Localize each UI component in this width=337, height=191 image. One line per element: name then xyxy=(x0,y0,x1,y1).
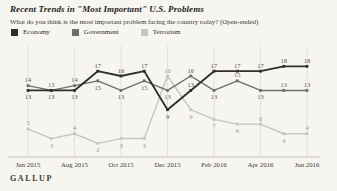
data-point-economy xyxy=(236,70,239,73)
data-point-economy xyxy=(27,89,30,92)
data-point-label-terrorism: 7 xyxy=(212,122,216,129)
data-point-government xyxy=(282,89,285,92)
data-point-label-terrorism: 16 xyxy=(164,67,171,74)
data-point-label-government: 13 xyxy=(211,93,218,100)
data-point-government xyxy=(213,89,216,92)
data-point-government xyxy=(236,79,239,82)
data-point-label-government: 15 xyxy=(141,84,148,91)
data-point-label-terrorism: 4 xyxy=(73,124,77,131)
data-point-label-government: 13 xyxy=(48,81,55,88)
data-point-terrorism xyxy=(213,118,216,121)
data-point-label-terrorism: 3 xyxy=(119,142,122,149)
data-point-label-economy: 17 xyxy=(211,62,218,69)
data-point-label-economy: 9 xyxy=(166,113,169,120)
data-point-label-economy: 13 xyxy=(71,93,78,100)
x-tick-label: Dec 2015 xyxy=(154,161,181,168)
x-tick-label: Apr 2016 xyxy=(248,161,274,168)
gallup-trend-chart-card: Recent Trends in "Most Important" U.S. P… xyxy=(0,0,337,191)
data-point-label-economy: 17 xyxy=(141,62,148,69)
data-point-terrorism xyxy=(143,137,146,140)
data-point-government xyxy=(306,89,309,92)
data-point-label-terrorism: 2 xyxy=(96,146,99,153)
gallup-logo: GALLUP xyxy=(10,174,53,183)
data-point-label-terrorism: 6 xyxy=(259,115,263,122)
data-point-government xyxy=(27,84,30,87)
data-point-economy xyxy=(143,70,146,73)
data-point-economy xyxy=(50,89,53,92)
data-point-economy xyxy=(306,65,309,68)
line-chart-canvas: Jun 2015Aug 2015Oct 2015Dec 2015Feb 2016… xyxy=(0,0,337,191)
data-point-terrorism xyxy=(282,132,285,135)
data-point-terrorism xyxy=(73,132,76,135)
data-point-label-government: 13 xyxy=(118,93,125,100)
data-point-label-economy: 16 xyxy=(118,67,125,74)
data-point-label-economy: 17 xyxy=(257,62,264,69)
x-tick-label: Jun 2015 xyxy=(16,161,41,168)
data-point-economy xyxy=(189,89,192,92)
data-point-government xyxy=(143,79,146,82)
data-point-label-terrorism: 3 xyxy=(50,142,53,149)
data-point-government xyxy=(73,84,76,87)
data-point-terrorism xyxy=(189,108,192,111)
data-point-economy xyxy=(120,75,123,78)
data-point-terrorism xyxy=(50,137,53,140)
data-point-economy xyxy=(96,70,99,73)
data-point-government xyxy=(96,79,99,82)
x-tick-label: Oct 2015 xyxy=(108,161,134,168)
data-point-label-terrorism: 6 xyxy=(236,127,240,134)
data-point-government xyxy=(259,89,262,92)
data-point-label-government: 16 xyxy=(188,67,195,74)
data-point-label-economy: 17 xyxy=(95,62,102,69)
data-point-terrorism xyxy=(236,123,239,126)
data-point-label-economy: 18 xyxy=(281,57,288,64)
data-point-label-economy: 13 xyxy=(48,93,55,100)
data-point-terrorism xyxy=(27,128,30,131)
data-point-terrorism xyxy=(120,137,123,140)
x-tick-label: Aug 2015 xyxy=(61,161,89,168)
data-point-label-government: 13 xyxy=(304,81,311,88)
data-point-label-economy: 18 xyxy=(304,57,311,64)
data-point-economy xyxy=(166,108,169,111)
data-point-government xyxy=(120,89,123,92)
data-point-label-terrorism: 4 xyxy=(282,137,286,144)
data-point-label-economy: 17 xyxy=(234,62,241,69)
data-point-label-government: 13 xyxy=(164,93,171,100)
data-point-economy xyxy=(213,70,216,73)
data-point-terrorism xyxy=(96,142,99,145)
data-point-government xyxy=(166,89,169,92)
data-point-label-economy: 13 xyxy=(25,93,32,100)
data-point-label-government: 14 xyxy=(71,76,78,83)
data-point-terrorism xyxy=(166,75,169,78)
data-point-terrorism xyxy=(259,123,262,126)
data-point-terrorism xyxy=(306,132,309,135)
data-point-label-terrorism: 3 xyxy=(143,142,146,149)
data-point-label-government: 14 xyxy=(25,76,32,83)
data-point-economy xyxy=(259,70,262,73)
data-point-government xyxy=(189,75,192,78)
data-point-label-terrorism: 5 xyxy=(26,119,29,126)
data-point-economy xyxy=(282,65,285,68)
data-point-label-government: 13 xyxy=(281,81,288,88)
x-tick-label: Feb 2016 xyxy=(201,161,227,168)
data-point-label-economy: 13 xyxy=(188,81,195,88)
data-point-label-government: 15 xyxy=(95,84,102,91)
data-point-label-terrorism: 4 xyxy=(305,124,309,131)
data-point-label-government: 13 xyxy=(257,93,264,100)
data-point-economy xyxy=(73,89,76,92)
data-point-label-terrorism: 9 xyxy=(189,113,192,120)
x-tick-label: Jun 2016 xyxy=(295,161,320,168)
